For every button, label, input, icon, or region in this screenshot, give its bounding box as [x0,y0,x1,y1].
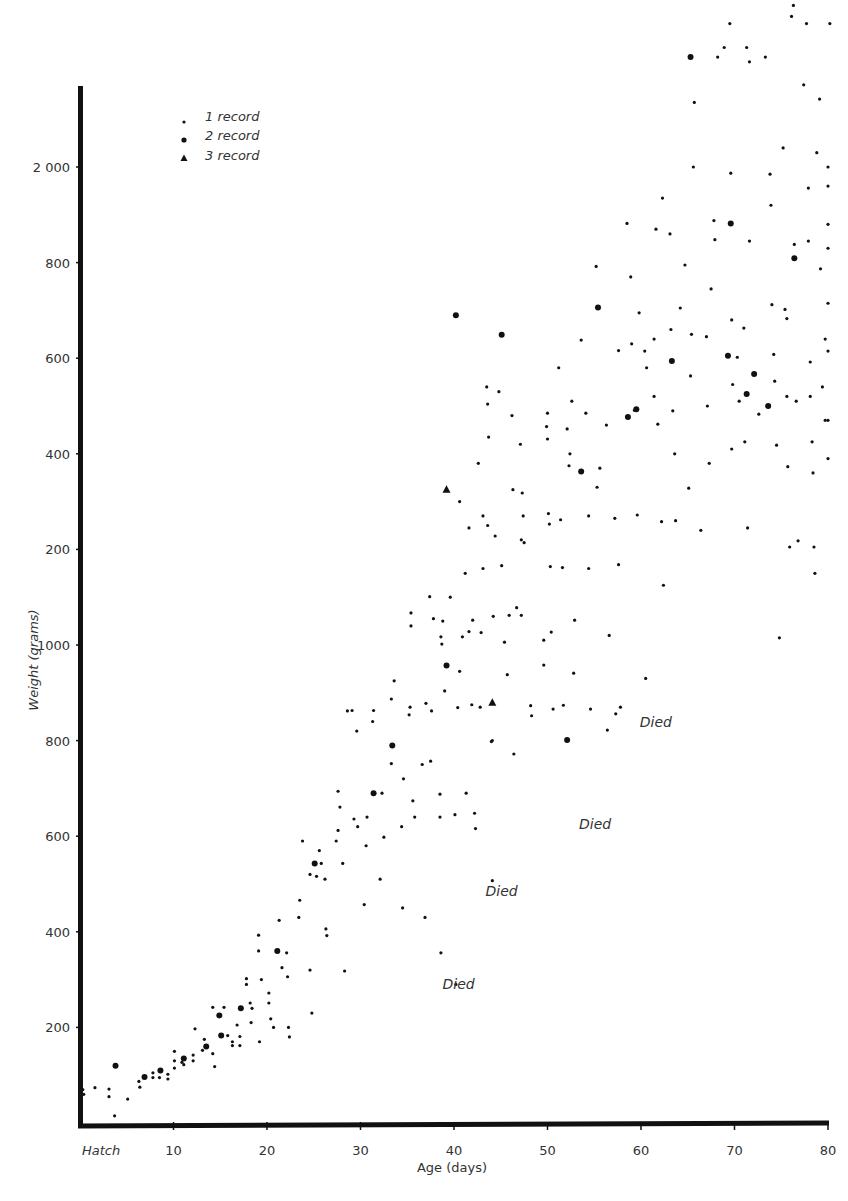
small-dot-marker [494,534,497,537]
small-dot-marker [520,614,523,617]
small-dot-marker [690,333,693,336]
small-dot-marker [477,462,480,465]
small-dot-marker [661,196,664,199]
small-dot-marker [492,615,495,618]
small-dot-marker [625,222,628,225]
small-dot-marker [617,563,620,566]
small-dot-marker [318,849,321,852]
small-dot-marker [486,524,489,527]
small-dot-marker [521,491,524,494]
small-dot-marker [308,968,311,971]
small-dot-marker [660,520,663,523]
small-dot-marker [748,60,751,63]
small-dot-marker [589,707,592,710]
y-tick-label: 400 [45,447,70,462]
small-dot-marker [258,1040,261,1043]
small-dot-marker [356,825,359,828]
small-dot-marker [439,951,442,954]
small-dot-marker [821,385,824,388]
small-dot-marker [705,335,708,338]
small-dot-marker [785,395,788,398]
small-dot-marker [708,462,711,465]
small-dot-marker [654,228,657,231]
small-dot-marker [796,539,799,542]
small-dot-marker [338,805,341,808]
small-dot-marker [605,424,608,427]
small-dot-marker [461,635,464,638]
small-dot-marker [481,514,484,517]
small-dot-marker [557,366,560,369]
small-dot-marker [644,677,647,680]
small-dot-marker [201,1049,204,1052]
small-dot-marker [297,916,300,919]
small-dot-marker [456,706,459,709]
small-dot-marker [728,22,731,25]
small-dot-marker [598,467,601,470]
small-dot-marker [520,538,523,541]
small-dot-marker [408,706,411,709]
small-dot-marker [393,679,396,682]
small-dot-marker [668,232,671,235]
small-dot-marker [683,263,686,266]
small-dot-marker [408,713,411,716]
small-dot-marker [382,836,385,839]
small-dot-marker [562,704,565,707]
small-dot-marker [402,777,405,780]
small-dot-marker [587,514,590,517]
large-dot-marker [669,358,675,364]
small-dot-marker [736,356,739,359]
small-dot-marker [802,83,805,86]
small-dot-marker [730,318,733,321]
small-dot-marker [652,337,655,340]
small-dot-marker [826,185,829,188]
small-dot-marker [424,702,427,705]
small-dot-marker [81,1088,84,1091]
small-dot-marker [519,443,522,446]
small-dot-marker [630,342,633,345]
small-dot-marker [288,1035,291,1038]
small-dot-marker [826,349,829,352]
large-dot-marker [595,305,601,311]
legend-label-1: 1 record [205,109,260,124]
small-dot-marker [614,712,617,715]
small-dot-marker [812,545,815,548]
small-dot-marker [287,1026,290,1029]
large-dot-marker [312,860,318,866]
small-dot-marker [815,151,818,154]
small-dot-marker [390,762,393,765]
small-dot-marker [126,1098,129,1101]
small-dot-marker [826,302,829,305]
small-dot-marker [438,793,441,796]
small-dot-marker [481,567,484,570]
small-dot-marker [809,395,812,398]
small-dot-marker [267,1001,270,1004]
small-dot-marker [826,223,829,226]
small-dot-marker [738,400,741,403]
small-dot-marker [82,1093,85,1096]
x-tick-label: 60 [633,1143,650,1158]
small-dot-marker [805,22,808,25]
small-dot-marker [238,1035,241,1038]
small-dot-marker [807,186,810,189]
small-dot-marker [257,949,260,952]
small-dot-marker [440,642,443,645]
small-dot-marker [151,1076,154,1079]
small-dot-marker [325,934,328,937]
small-dot-marker [350,709,353,712]
small-dot-marker [272,1026,275,1029]
y-tick-label: 800 [45,734,70,749]
small-dot-marker [542,663,545,666]
small-dot-marker [712,219,715,222]
small-dot-marker [793,243,796,246]
small-dot-marker [439,635,442,638]
x-tick-label: 20 [259,1143,276,1158]
small-dot-marker [320,862,323,865]
small-dot-marker [561,566,564,569]
small-dot-marker [441,620,444,623]
small-dot-marker [335,839,338,842]
small-dot-marker [222,1006,225,1009]
small-dot-marker [572,672,575,675]
x-tick-label: 50 [539,1143,556,1158]
small-dot-marker [573,619,576,622]
small-dot-marker [423,916,426,919]
